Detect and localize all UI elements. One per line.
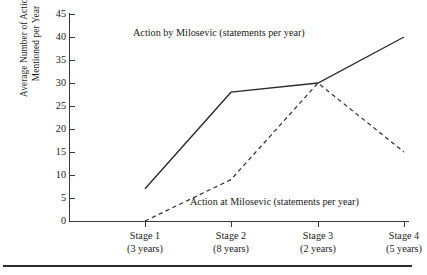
y-tick-label-15: 15 (26, 147, 66, 157)
x-axis-label-stage-1-name: Stage 1 (130, 230, 160, 241)
y-tick-label-30: 30 (26, 78, 66, 88)
x-axis-label-stage-4: Stage 4 (5 years) (356, 229, 427, 255)
y-tick-label-20: 20 (26, 124, 66, 134)
x-axis-label-stage-4-name: Stage 4 (389, 230, 419, 241)
annotation-action-at-milosevic: Action at Milosevic (statements per year… (190, 196, 359, 207)
y-tick-35 (70, 60, 75, 61)
y-tick-label-45: 45 (26, 9, 66, 19)
y-tick-label-40: 40 (26, 32, 66, 42)
annotation-action-by-milosevic: Action by Milosevic (statements per year… (133, 27, 305, 38)
y-tick-label-35: 35 (26, 55, 66, 65)
x-axis-label-stage-4-duration: (5 years) (356, 242, 427, 255)
y-tick-40 (70, 37, 75, 38)
y-tick-5 (70, 198, 75, 199)
x-axis-label-stage-3: Stage 3 (2 years) (270, 229, 366, 255)
x-axis-label-stage-1-duration: (3 years) (97, 242, 193, 255)
x-axis-label-stage-3-name: Stage 3 (303, 230, 333, 241)
x-axis-label-stage-2: Stage 2 (8 years) (183, 229, 279, 255)
y-tick-label-5: 5 (26, 193, 66, 203)
y-tick-label-25: 25 (26, 101, 66, 111)
y-tick-45 (70, 14, 75, 15)
x-axis-label-stage-2-duration: (8 years) (183, 242, 279, 255)
y-tick-20 (70, 129, 75, 130)
y-axis-line (69, 13, 70, 222)
series-line-action-by-milosevic (145, 37, 404, 189)
x-axis-line (69, 221, 409, 222)
x-tick-stage-4 (404, 222, 405, 227)
y-tick-30 (70, 83, 75, 84)
x-tick-stage-2 (231, 222, 232, 227)
x-axis-label-stage-1: Stage 1 (3 years) (97, 229, 193, 255)
x-axis-label-stage-3-duration: (2 years) (270, 242, 366, 255)
y-tick-25 (70, 106, 75, 107)
y-tick-label-10: 10 (26, 170, 66, 180)
y-tick-15 (70, 152, 75, 153)
y-tick-10 (70, 175, 75, 176)
x-axis-label-stage-2-name: Stage 2 (216, 230, 246, 241)
bottom-divider (3, 265, 412, 267)
y-axis-title: Average Number of Actions Mentioned per … (19, 0, 42, 144)
y-tick-label-0: 0 (26, 216, 66, 226)
x-tick-stage-3 (318, 222, 319, 227)
x-tick-stage-1 (145, 222, 146, 227)
